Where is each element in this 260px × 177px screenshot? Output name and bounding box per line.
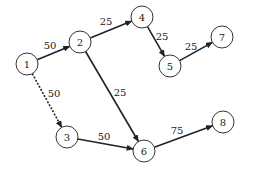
node-8: 8 (212, 111, 234, 133)
edge-line (154, 126, 212, 147)
edge-weight-label: 25 (100, 16, 113, 27)
node-label: 1 (24, 59, 30, 70)
edge-2-6: 25 (86, 51, 139, 141)
edge-weight-label: 50 (98, 131, 111, 142)
edge-weight-label: 25 (185, 41, 198, 52)
node-label: 4 (139, 12, 145, 23)
network-diagram: 5050252525255075 12345678 (0, 0, 260, 177)
edge-1-2: 50 (37, 40, 70, 60)
edge-4-5: 25 (147, 27, 168, 57)
node-label: 5 (167, 61, 173, 72)
node-1: 1 (16, 53, 38, 75)
node-label: 2 (77, 37, 83, 48)
edge-weight-label: 25 (114, 87, 127, 98)
edge-2-4: 25 (90, 16, 132, 38)
node-5: 5 (159, 55, 181, 77)
node-label: 7 (219, 32, 225, 43)
node-6: 6 (133, 140, 155, 162)
edge-weight-label: 50 (44, 40, 57, 51)
edge-3-6: 50 (78, 131, 133, 149)
edge-1-3: 50 (32, 74, 61, 128)
node-4: 4 (131, 6, 153, 28)
edge-weight-label: 25 (156, 31, 169, 42)
node-7: 7 (211, 26, 233, 48)
node-label: 3 (64, 132, 70, 143)
edge-line (32, 74, 61, 128)
edge-weight-label: 75 (171, 125, 184, 136)
edge-line (86, 51, 139, 141)
nodes-group: 12345678 (16, 6, 234, 162)
edge-weight-label: 50 (48, 88, 61, 99)
edge-5-7: 25 (180, 41, 213, 61)
node-2: 2 (69, 31, 91, 53)
node-label: 8 (220, 117, 226, 128)
node-3: 3 (56, 126, 78, 148)
edge-6-8: 75 (154, 125, 212, 147)
node-label: 6 (141, 146, 147, 157)
